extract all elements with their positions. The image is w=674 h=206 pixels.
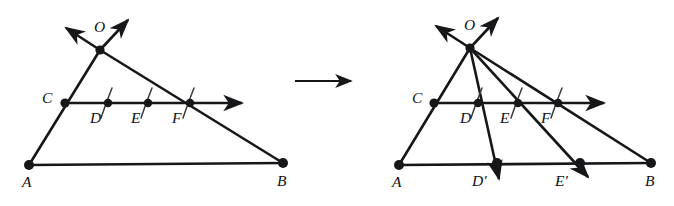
- label-E: E: [131, 110, 140, 126]
- point-D-right: [474, 99, 482, 107]
- right-panel: [394, 18, 656, 179]
- point-B: [278, 158, 288, 168]
- point-F-right: [554, 99, 562, 107]
- point-C-right: [429, 98, 438, 107]
- point-E: [144, 99, 152, 107]
- label-D: D: [90, 110, 101, 126]
- label-D-right: D: [460, 110, 471, 126]
- point-A-right: [394, 160, 404, 170]
- label-D-prime: D′: [472, 173, 487, 189]
- label-C: C: [42, 90, 52, 106]
- label-A: A: [22, 174, 31, 190]
- point-O: [95, 45, 104, 54]
- point-O-right: [465, 43, 474, 52]
- label-C-right: C: [412, 90, 422, 106]
- point-D: [104, 99, 112, 107]
- label-E-prime: E′: [555, 173, 568, 189]
- point-F: [186, 99, 194, 107]
- point-C: [60, 98, 69, 107]
- label-O-right: O: [464, 17, 475, 33]
- label-O: O: [94, 19, 105, 35]
- segment-A-to-B-right: [399, 163, 651, 165]
- label-F-right: F: [541, 110, 550, 126]
- segment-A-to-B: [29, 163, 283, 165]
- label-B: B: [277, 173, 286, 189]
- label-E-right: E: [500, 110, 509, 126]
- label-A-right: A: [392, 174, 401, 190]
- point-E-right: [514, 99, 522, 107]
- point-B-right: [646, 158, 656, 168]
- geometry-figure: O C D E F A B O C D E F A D′ E′ B: [0, 0, 674, 206]
- point-E-prime: [575, 158, 585, 168]
- point-D-prime: [492, 158, 502, 168]
- left-panel: [24, 20, 288, 170]
- label-B-right: B: [645, 173, 654, 189]
- point-A: [24, 160, 34, 170]
- label-F: F: [172, 110, 181, 126]
